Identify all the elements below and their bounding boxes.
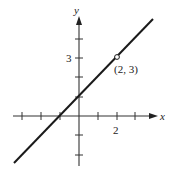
point-label: (2, 3) xyxy=(114,63,138,76)
graph: x y 2 3 (2, 3) xyxy=(0,0,171,177)
line-series xyxy=(14,19,153,163)
open-point-marker xyxy=(115,55,120,60)
y-axis-label: y xyxy=(73,4,79,16)
x-axis-label: x xyxy=(159,110,165,122)
y-axis-arrow-icon xyxy=(76,16,82,25)
x-axis-arrow-icon xyxy=(149,113,158,119)
y-tick-label-3: 3 xyxy=(66,52,72,64)
x-tick-label-2: 2 xyxy=(113,124,119,136)
